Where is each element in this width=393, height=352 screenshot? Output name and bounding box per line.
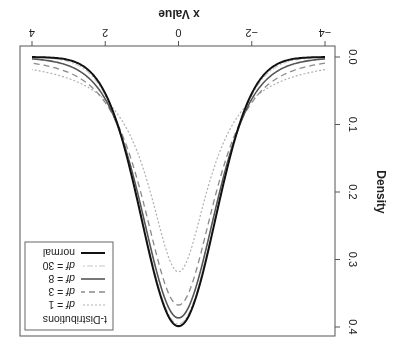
- t-distribution-chart: −4−2024 0.00.10.20.30.4 x Value Density …: [0, 0, 393, 352]
- y-tick-label: 0.2: [347, 184, 359, 199]
- x-tick-label: 0: [175, 27, 181, 39]
- y-tick-label: 0.0: [347, 49, 359, 64]
- x-tick-label: 4: [29, 27, 35, 39]
- legend-title: t-Distributions: [43, 314, 107, 326]
- x-axis-title: x Value: [158, 7, 200, 21]
- y-axis: 0.00.10.20.30.4: [335, 49, 359, 334]
- legend-entry-label: normal: [43, 247, 75, 259]
- x-axis: −4−2024: [29, 27, 331, 46]
- x-tick-label: −4: [319, 27, 332, 39]
- legend-entry-label: df = 30: [42, 260, 75, 272]
- x-tick-label: 2: [102, 27, 108, 39]
- legend-entry-label: df = 1: [48, 299, 75, 311]
- legend-entry-label: df = 3: [48, 286, 75, 298]
- legend-entry-label: df = 8: [48, 273, 75, 285]
- chart-stage: −4−2024 0.00.10.20.30.4 x Value Density …: [0, 0, 393, 352]
- y-tick-label: 0.4: [347, 319, 359, 334]
- y-axis-title: Density: [374, 170, 388, 214]
- x-tick-label: −2: [245, 27, 258, 39]
- y-tick-label: 0.1: [347, 117, 359, 132]
- legend: t-Distributionsdf = 1df = 3df = 8df = 30…: [25, 242, 113, 330]
- y-tick-label: 0.3: [347, 252, 359, 267]
